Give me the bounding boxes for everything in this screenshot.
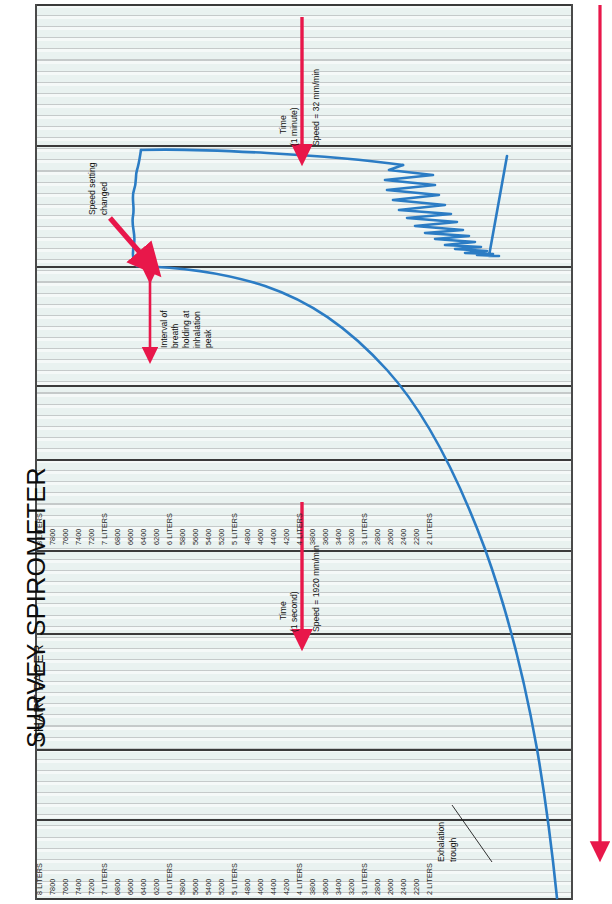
volume-label: 2 LITERS	[425, 513, 434, 545]
volume-label: 7400	[74, 529, 83, 545]
volume-label: 7 LITERS	[100, 863, 109, 895]
volume-label: 7200	[87, 529, 96, 545]
volume-label: 7800	[48, 529, 57, 545]
volume-label: 3 LITERS	[360, 863, 369, 895]
volume-label: 2200	[412, 879, 421, 895]
volume-label: 4600	[256, 529, 265, 545]
volume-label: 6200	[152, 529, 161, 545]
volume-label: 6 LITERS	[165, 513, 174, 545]
volume-label: 5800	[178, 529, 187, 545]
volume-label: 4600	[256, 879, 265, 895]
chart-paper	[35, 4, 573, 900]
volume-label: 2800	[373, 529, 382, 545]
volume-label: 7600	[61, 529, 70, 545]
major-rule	[37, 459, 571, 461]
volume-label: 3400	[334, 529, 343, 545]
volume-label: 2600	[386, 879, 395, 895]
volume-label: 3800	[308, 529, 317, 545]
speed-fast-time-label: Time	[279, 601, 288, 620]
volume-label: 7200	[87, 879, 96, 895]
volume-label: 5600	[191, 529, 200, 545]
volume-label: 4800	[243, 529, 252, 545]
major-rule	[37, 633, 571, 635]
exhalation-trough-line1: Exhalation	[437, 822, 446, 862]
volume-label: 3200	[347, 879, 356, 895]
volume-label: 6800	[113, 879, 122, 895]
speed-slow-time-sub: (1 minute)	[290, 107, 299, 146]
volume-label: 5400	[204, 529, 213, 545]
speed-fast-time-sub: (1 second)	[290, 591, 299, 632]
page-subtitle: CHART PAPER	[31, 644, 46, 742]
volume-label: 4400	[269, 529, 278, 545]
volume-label: 3600	[321, 879, 330, 895]
breath-hold-line4: inhalation	[193, 311, 202, 348]
volume-label: 6600	[126, 529, 135, 545]
major-rule	[37, 385, 571, 387]
volume-label: 5200	[217, 529, 226, 545]
volume-label: 5600	[191, 879, 200, 895]
volume-label: 4200	[282, 529, 291, 545]
right-margin	[573, 0, 612, 904]
volume-label: 2800	[373, 879, 382, 895]
volume-label: 3200	[347, 529, 356, 545]
major-rule	[37, 749, 571, 751]
volume-label: 6600	[126, 879, 135, 895]
volume-label: 7400	[74, 879, 83, 895]
speed-fast-value: Speed = 1920 mm/min	[312, 545, 321, 632]
volume-label: 5 LITERS	[230, 863, 239, 895]
volume-label: 3800	[308, 879, 317, 895]
breath-hold-line1: Interval of	[160, 310, 169, 348]
volume-label: 2400	[399, 879, 408, 895]
major-rule	[37, 145, 571, 147]
volume-label: 6400	[139, 879, 148, 895]
volume-label: 4400	[269, 879, 278, 895]
volume-label: 2200	[412, 529, 421, 545]
volume-label: 3400	[334, 879, 343, 895]
speed-slow-time-label: Time	[279, 115, 288, 134]
speed-slow-value: Speed = 32 mm/min	[312, 69, 321, 146]
volume-label: 5 LITERS	[230, 513, 239, 545]
volume-label: 2 LITERS	[425, 863, 434, 895]
volume-label: 2400	[399, 529, 408, 545]
volume-label: 6 LITERS	[165, 863, 174, 895]
volume-label: 4800	[243, 879, 252, 895]
volume-label: 3600	[321, 529, 330, 545]
volume-label: 5200	[217, 879, 226, 895]
speed-change-line1: Speed setting	[88, 162, 97, 215]
major-rule	[37, 4, 571, 6]
volume-label: 4 LITERS	[295, 863, 304, 895]
volume-label: 8 LITERS	[35, 513, 44, 545]
speed-change-line2: changed	[100, 182, 109, 215]
volume-label: 5400	[204, 879, 213, 895]
breath-hold-line3: holding at	[182, 311, 191, 348]
major-rule	[37, 266, 571, 268]
grid-band-highlights	[37, 4, 571, 900]
volume-label: 7800	[48, 879, 57, 895]
volume-label: 5800	[178, 879, 187, 895]
major-rule	[37, 819, 571, 821]
exhalation-trough-line2: trough	[449, 838, 458, 862]
volume-label: 6400	[139, 529, 148, 545]
volume-label: 2600	[386, 529, 395, 545]
breath-hold-line2: breath	[171, 324, 180, 348]
breath-hold-line5: peak	[204, 329, 213, 348]
major-rule	[37, 898, 571, 900]
volume-label: 4200	[282, 879, 291, 895]
major-rule	[37, 550, 571, 552]
volume-label: 7 LITERS	[100, 513, 109, 545]
volume-label: 7600	[61, 879, 70, 895]
volume-label: 3 LITERS	[360, 513, 369, 545]
volume-label: 6200	[152, 879, 161, 895]
left-margin	[0, 0, 35, 904]
volume-label: 8 LITERS	[35, 863, 44, 895]
volume-label: 4 LITERS	[295, 513, 304, 545]
volume-label: 6800	[113, 529, 122, 545]
